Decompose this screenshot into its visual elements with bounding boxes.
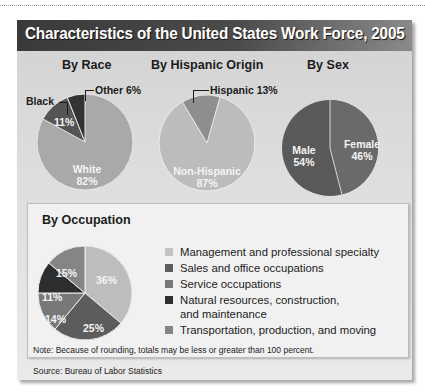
swatch-icon [165,326,173,334]
legend-item-service: Service occupations [165,277,379,291]
legend-item-transport: Transportation, production, and moving [165,323,379,337]
legend-item-management: Management and professional specialty [165,245,379,259]
source-text: Source: Bureau of Labor Statistics [33,366,162,376]
occ-management-value: 36% [96,274,117,286]
female-value: 46% [339,150,385,162]
sex-pie [17,20,412,220]
occ-transport-value: 15% [56,267,77,279]
swatch-icon [165,248,173,256]
legend-item-natural-cont: and maintenance [165,307,379,321]
legend-item-sales: Sales and office occupations [165,261,379,275]
swatch-icon [165,296,173,304]
swatch-icon [165,264,173,272]
rounding-note: Note: Because of rounding, totals may be… [33,345,314,355]
occupation-legend: Management and professional specialty Sa… [165,245,379,339]
occ-sales-value: 25% [83,322,104,334]
infographic-card: Characteristics of the United States Wor… [17,20,412,380]
top-dotted-rule [0,5,425,6]
female-label: Female [339,138,385,150]
swatch-icon [165,280,173,288]
occupation-panel: By Occupation 36% 25% 14% 11% 15% Manage… [27,203,409,358]
legend-item-natural: Natural resources, construction, [165,293,379,307]
male-label: Male [287,144,321,156]
occ-service-value: 14% [45,313,66,325]
occ-natural-value: 11% [42,291,62,303]
male-value: 54% [287,156,321,168]
